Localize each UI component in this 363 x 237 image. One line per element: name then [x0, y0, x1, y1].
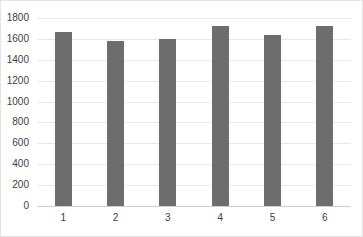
y-axis-tick-label: 400: [0, 159, 29, 169]
x-axis-category-label: 4: [200, 213, 240, 223]
y-axis-tick-label: 1000: [0, 97, 29, 107]
plot-area: [37, 18, 351, 206]
y-axis-tick-label: 1600: [0, 34, 29, 44]
bar[interactable]: [55, 32, 72, 206]
x-axis-category-label: 6: [305, 213, 345, 223]
y-axis-tick-label: 1200: [0, 76, 29, 86]
bar[interactable]: [212, 26, 229, 206]
x-axis-category-label: 5: [253, 213, 293, 223]
y-axis-tick-label: 200: [0, 180, 29, 190]
y-axis-tick-label: 0: [0, 201, 29, 211]
y-axis-tick-label: 1800: [0, 13, 29, 23]
x-axis-line: [37, 206, 351, 207]
x-axis-category-label: 3: [148, 213, 188, 223]
y-axis-tick-label: 600: [0, 138, 29, 148]
bar-chart: 020040060080010001200140016001800 123456: [0, 0, 363, 237]
bar[interactable]: [264, 35, 281, 206]
bars-layer: [37, 18, 351, 206]
bar[interactable]: [107, 41, 124, 206]
y-axis-tick-label: 1400: [0, 55, 29, 65]
bar[interactable]: [159, 39, 176, 206]
bar[interactable]: [316, 26, 333, 206]
x-axis-category-label: 1: [43, 213, 83, 223]
x-axis-category-label: 2: [96, 213, 136, 223]
y-axis-tick-label: 800: [0, 117, 29, 127]
